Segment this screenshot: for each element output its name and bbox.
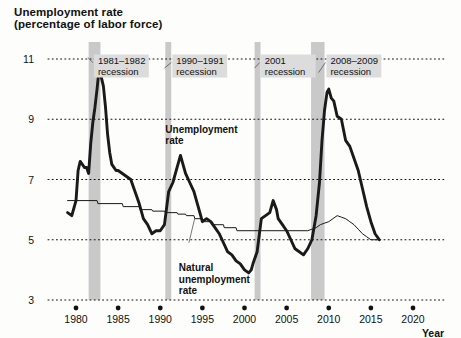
- series-label-natural-rate-line1: Natural: [179, 262, 214, 273]
- recession-band-2: [165, 42, 171, 300]
- series-label-natural-rate-line3: rate: [179, 285, 198, 296]
- y-tick-label-11: 11: [23, 53, 34, 65]
- x-tick-label-2020: 2020: [401, 313, 425, 325]
- recession-label-word-3: recession: [265, 66, 306, 77]
- x-tick-marker-2000: [242, 306, 247, 311]
- series-label-unemployment-rate-line2: rate: [165, 135, 184, 146]
- y-tick-label-9: 9: [28, 113, 34, 125]
- x-tick-marker-1985: [116, 306, 121, 311]
- recession-label-years-4: 2008–2009: [330, 55, 378, 66]
- recession-label-word-1: recession: [98, 66, 139, 77]
- x-tick-label-2010: 2010: [317, 313, 341, 325]
- recession-label-years-2: 1990–1991: [176, 55, 224, 66]
- y-tick-label-3: 3: [28, 294, 34, 306]
- x-tick-marker-2020: [411, 306, 416, 311]
- x-tick-marker-1995: [200, 306, 205, 311]
- x-tick-label-2005: 2005: [275, 313, 299, 325]
- x-tick-marker-2010: [326, 306, 331, 311]
- chart-title-block: Unemployment rate (percentage of labor f…: [14, 6, 264, 30]
- x-tick-label-1980: 1980: [64, 313, 88, 325]
- x-tick-marker-2015: [368, 306, 373, 311]
- recession-label-word-2: recession: [176, 66, 217, 77]
- x-tick-label-2015: 2015: [359, 313, 383, 325]
- x-axis-title: Year: [422, 327, 444, 338]
- unemployment-rate-chart: 3579111980198519901995200020052010201520…: [0, 0, 461, 338]
- page-title: Unemployment rate: [14, 6, 264, 18]
- x-tick-marker-1990: [158, 306, 163, 311]
- recession-band-3: [255, 42, 261, 300]
- recession-label-word-4: recession: [330, 66, 371, 77]
- x-tick-label-1995: 1995: [191, 313, 215, 325]
- recession-label-years-3: 2001: [265, 55, 286, 66]
- x-tick-label-2000: 2000: [233, 313, 257, 325]
- x-tick-label-1990: 1990: [149, 313, 173, 325]
- x-tick-marker-2005: [284, 306, 289, 311]
- series-label-natural-rate-line2: unemployment: [179, 274, 251, 285]
- x-tick-label-1985: 1985: [106, 313, 130, 325]
- recession-band-4: [311, 42, 324, 300]
- y-tick-label-7: 7: [28, 174, 34, 186]
- chart-background: [0, 0, 461, 338]
- recession-label-years-1: 1981–1982: [98, 55, 146, 66]
- chart-subtitle: (percentage of labor force): [14, 18, 264, 30]
- x-tick-marker-1980: [74, 306, 79, 311]
- y-tick-label-5: 5: [28, 234, 34, 246]
- series-label-unemployment-rate-line1: Unemployment: [165, 124, 238, 135]
